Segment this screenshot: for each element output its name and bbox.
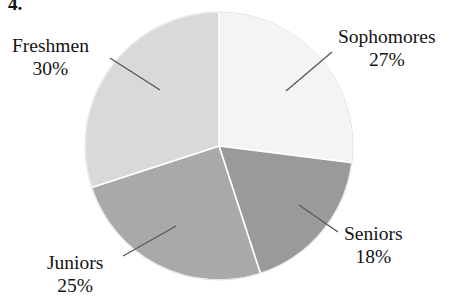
pie-label-seniors-percent: 18% <box>344 245 403 268</box>
pie-label-juniors: Juniors 25% <box>47 251 103 297</box>
pie-label-freshmen-name: Freshmen <box>12 34 89 57</box>
pie-label-juniors-name: Juniors <box>47 251 103 274</box>
pie-label-sophomores-name: Sophomores <box>338 25 436 48</box>
pie-label-sophomores-percent: 27% <box>338 48 436 71</box>
pie-label-seniors-name: Seniors <box>344 222 403 245</box>
pie-label-freshmen: Freshmen 30% <box>12 34 89 80</box>
pie-chart-figure: 4. Freshmen 30% Sophomores 27% Seniors 1… <box>0 0 461 299</box>
pie-label-seniors: Seniors 18% <box>344 222 403 268</box>
pie-label-juniors-percent: 25% <box>47 274 103 297</box>
pie-label-freshmen-percent: 30% <box>12 57 89 80</box>
pie-slice-sophomores <box>219 12 353 163</box>
pie-label-sophomores: Sophomores 27% <box>338 25 436 71</box>
